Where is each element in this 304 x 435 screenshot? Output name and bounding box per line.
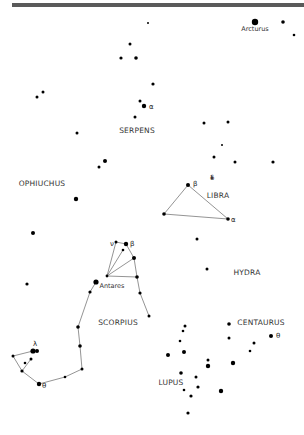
- star-marker: [219, 389, 223, 393]
- star-marker: [228, 337, 231, 340]
- greek-letter-label: δ: [210, 174, 214, 182]
- star-marker: [186, 183, 190, 187]
- constellation-label: SERPENS: [119, 126, 155, 135]
- star-marker: [98, 166, 101, 169]
- star-marker: [281, 20, 285, 24]
- star-marker: [206, 268, 209, 271]
- star-marker: [42, 91, 45, 94]
- greek-letter-label: β: [193, 180, 197, 188]
- star-marker: [166, 353, 170, 357]
- star-marker: [25, 282, 28, 285]
- star-marker: [253, 342, 256, 345]
- star-marker: [151, 82, 154, 85]
- constellation-line: [13, 282, 96, 384]
- star-marker: [37, 382, 41, 386]
- constellation-line: [22, 359, 31, 371]
- star-marker: [30, 348, 35, 353]
- star-marker: [271, 160, 274, 163]
- star-marker: [30, 358, 33, 361]
- star-marker: [81, 368, 84, 371]
- star-marker: [74, 197, 78, 201]
- star-marker: [231, 361, 235, 365]
- star-marker: [134, 56, 138, 60]
- star-marker: [179, 371, 183, 375]
- star-marker: [207, 359, 210, 362]
- greek-letter-label: ν: [110, 240, 114, 248]
- star-marker: [196, 238, 199, 241]
- star-marker: [182, 330, 185, 333]
- star-marker: [234, 161, 237, 164]
- star-marker: [249, 350, 252, 353]
- constellation-label: LUPUS: [158, 378, 183, 387]
- star-marker: [186, 411, 189, 414]
- star-marker: [203, 122, 206, 125]
- star-marker: [142, 104, 146, 108]
- star-marker: [162, 212, 166, 216]
- star-marker: [106, 275, 109, 278]
- star-marker: [226, 217, 230, 221]
- star-marker: [269, 334, 273, 338]
- constellation-line: [126, 244, 137, 277]
- constellation-label: OPHIUCHUS: [19, 179, 66, 188]
- star-marker: [148, 315, 151, 318]
- constellation-line: [107, 276, 137, 277]
- star-marker: [293, 34, 296, 37]
- greek-letter-label: α: [149, 103, 154, 111]
- greek-letter-label: θ: [276, 332, 280, 340]
- star-marker: [139, 100, 142, 103]
- star-marker: [189, 394, 192, 397]
- star-marker: [195, 376, 198, 379]
- greek-letter-label: β: [130, 240, 134, 248]
- labels: SERPENSOPHIUCHUSLIBRAHYDRASCORPIUSCENTAU…: [19, 25, 285, 390]
- star-marker: [182, 350, 186, 354]
- greek-letter-label: λ: [33, 340, 37, 348]
- star-marker: [24, 362, 27, 365]
- star-marker: [31, 231, 35, 235]
- star-marker: [213, 156, 216, 159]
- star-marker: [64, 376, 67, 379]
- constellation-line: [137, 277, 149, 316]
- constellation-label: CENTAURUS: [237, 318, 285, 327]
- star-marker: [138, 291, 141, 294]
- constellation-label: LIBRA: [207, 191, 230, 200]
- star-marker: [196, 385, 199, 388]
- star-marker: [147, 22, 149, 24]
- star-marker: [35, 349, 39, 353]
- star-marker: [103, 159, 107, 163]
- constellation-label: SCORPIUS: [98, 318, 138, 327]
- star-marker: [115, 241, 118, 244]
- star-marker: [12, 355, 15, 358]
- star-chart: SERPENSOPHIUCHUSLIBRAHYDRASCORPIUSCENTAU…: [0, 0, 304, 435]
- star-marker: [184, 325, 187, 328]
- star-marker: [124, 242, 128, 246]
- constellation-line: [107, 250, 123, 276]
- star-marker: [93, 279, 98, 284]
- stars: [12, 19, 296, 415]
- star-marker: [76, 325, 80, 329]
- star-marker: [119, 56, 122, 59]
- star-marker: [132, 256, 136, 260]
- star-marker: [88, 290, 91, 293]
- star-marker: [122, 249, 125, 252]
- star-marker: [183, 389, 186, 392]
- star-name-label: Arcturus: [241, 25, 269, 33]
- greek-letter-label: θ: [42, 382, 46, 390]
- star-marker: [135, 275, 139, 279]
- star-marker: [206, 364, 210, 368]
- star-marker: [20, 369, 23, 372]
- star-marker: [134, 116, 137, 119]
- star-marker: [227, 322, 231, 326]
- star-marker: [227, 121, 230, 124]
- star-marker: [78, 344, 82, 348]
- star-marker: [221, 144, 223, 146]
- star-marker: [179, 340, 182, 343]
- star-marker: [76, 132, 79, 135]
- greek-letter-label: α: [231, 216, 236, 224]
- star-marker: [129, 43, 132, 46]
- star-marker: [36, 96, 39, 99]
- constellation-label: HYDRA: [233, 268, 261, 277]
- star-name-label: Antares: [99, 282, 125, 290]
